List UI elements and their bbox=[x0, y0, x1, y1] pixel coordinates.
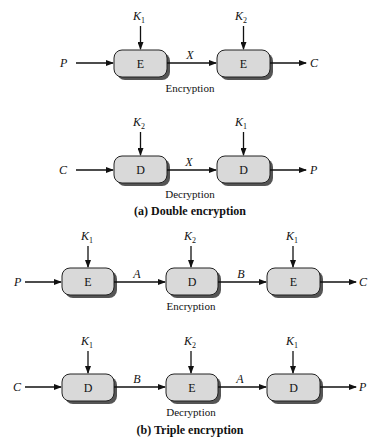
caption-triple-encryption: (b) Triple encryption bbox=[137, 423, 244, 437]
triple-decryption-row: C D K1 B E K2 A D K1 P Decryption bbox=[13, 334, 367, 418]
intermediate-label: B bbox=[237, 267, 245, 281]
key-label: K1 bbox=[132, 9, 145, 25]
key-label: K2 bbox=[234, 9, 247, 25]
stage-op: D bbox=[239, 163, 248, 177]
stage-op: E bbox=[290, 275, 297, 289]
stage-op: E bbox=[137, 57, 144, 71]
stage-op: D bbox=[289, 381, 298, 395]
stage-box-2: E bbox=[217, 50, 273, 80]
stage-op: E bbox=[240, 57, 247, 71]
intermediate-label: X bbox=[185, 48, 194, 62]
stage-box-1: E bbox=[62, 268, 117, 298]
intermediate-label: B bbox=[133, 372, 141, 386]
stage-box-2: E bbox=[166, 374, 221, 404]
stage-box-1: D bbox=[62, 374, 117, 404]
output-label: C bbox=[310, 56, 319, 70]
input-label: P bbox=[13, 275, 22, 289]
input-label: C bbox=[59, 163, 68, 177]
row-label: Encryption bbox=[166, 82, 215, 94]
key-label: K1 bbox=[285, 229, 298, 245]
key-label: K1 bbox=[285, 334, 298, 350]
double-decryption-row: C D K2 X D K1 P Decryption bbox=[59, 115, 318, 200]
stage-box-1: E bbox=[114, 50, 170, 80]
key-label: K2 bbox=[183, 229, 196, 245]
intermediate-label: X bbox=[184, 155, 193, 169]
row-label: Decryption bbox=[166, 406, 216, 418]
key-label: K1 bbox=[234, 115, 247, 131]
key-label: K2 bbox=[183, 334, 196, 350]
key-label: K1 bbox=[80, 229, 93, 245]
key-label: K1 bbox=[80, 334, 93, 350]
caption-double-encryption: (a) Double encryption bbox=[134, 204, 246, 218]
stage-box-3: D bbox=[267, 374, 323, 404]
stage-box-2: D bbox=[166, 268, 221, 298]
stage-op: E bbox=[188, 381, 195, 395]
encryption-diagram: P E K1 X E K2 C Encryption C D K2 bbox=[0, 0, 377, 443]
stage-op: D bbox=[188, 275, 197, 289]
output-label: P bbox=[358, 380, 367, 394]
output-label: P bbox=[309, 163, 318, 177]
row-label: Decryption bbox=[165, 188, 215, 200]
row-label: Encryption bbox=[167, 300, 216, 312]
stage-box-3: E bbox=[267, 268, 323, 298]
stage-op: D bbox=[84, 381, 93, 395]
output-label: C bbox=[359, 275, 368, 289]
stage-op: D bbox=[136, 163, 145, 177]
stage-op: E bbox=[84, 275, 91, 289]
input-label: C bbox=[13, 380, 22, 394]
triple-encryption-row: P E K1 A D K2 B E K1 C Encryption bbox=[13, 229, 368, 312]
input-label: P bbox=[59, 56, 68, 70]
double-encryption-row: P E K1 X E K2 C Encryption bbox=[59, 9, 319, 94]
stage-box-2: D bbox=[217, 156, 273, 186]
intermediate-label: A bbox=[235, 372, 244, 386]
key-label: K2 bbox=[132, 115, 145, 131]
intermediate-label: A bbox=[132, 267, 141, 281]
stage-box-1: D bbox=[114, 156, 170, 186]
